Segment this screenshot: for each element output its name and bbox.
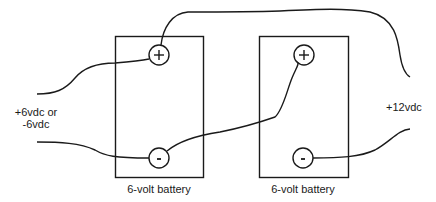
battery-1-label: 6-volt battery — [109, 183, 209, 195]
left-output-label-line1: +6vdc or — [10, 106, 62, 118]
wire-left-input-to-b1-negative — [37, 142, 149, 158]
wire-b1-positive-to-12v-output — [161, 9, 410, 77]
wire-left-input-to-b1-positive — [37, 59, 149, 94]
left-output-label: +6vdc or -6vdc — [10, 106, 62, 130]
battery-2-label: 6-volt battery — [253, 183, 353, 195]
wire-b1-negative-to-b2-positive — [167, 62, 298, 151]
battery-1-negative-terminal — [149, 148, 169, 168]
battery-wiring-diagram — [0, 0, 436, 202]
battery-2-negative-terminal — [293, 148, 313, 168]
right-output-label: +12vdc — [386, 101, 422, 113]
wire-b2-negative-to-right-output — [313, 129, 410, 158]
left-output-label-line2: -6vdc — [10, 118, 62, 130]
